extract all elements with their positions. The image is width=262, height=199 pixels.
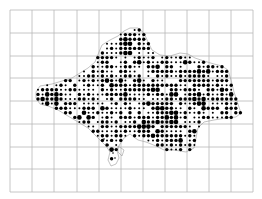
record-dot (180, 112, 182, 114)
record-dot (193, 121, 195, 123)
record-dot (212, 116, 214, 118)
record-dot (143, 93, 145, 95)
record-dot (115, 75, 117, 77)
record-dot (115, 52, 117, 54)
record-dot (106, 139, 108, 141)
record-dot (105, 125, 108, 128)
record-dot (124, 121, 126, 123)
record-dot (230, 89, 232, 91)
record-dot (111, 121, 113, 123)
record-dot (211, 88, 214, 91)
record-dot (147, 65, 150, 68)
record-dot (110, 88, 113, 91)
record-dot (234, 107, 237, 110)
record-dot (155, 88, 160, 93)
record-dot (92, 93, 94, 95)
record-dot (175, 70, 177, 72)
record-dot (170, 107, 173, 110)
record-dot (147, 120, 150, 123)
record-dot (133, 33, 136, 36)
record-dot (73, 116, 76, 119)
record-dot (175, 149, 177, 151)
record-dot (107, 144, 109, 146)
record-dot (143, 98, 145, 100)
record-dot (97, 103, 99, 105)
record-dot (134, 93, 136, 95)
record-dot (147, 134, 150, 137)
record-dot (220, 93, 223, 96)
record-dot (97, 121, 99, 123)
record-dot (120, 61, 122, 63)
record-dot (165, 107, 168, 110)
record-dot (184, 111, 187, 114)
record-dot (119, 125, 122, 128)
record-dot (65, 89, 67, 91)
record-dot (124, 125, 127, 128)
record-dot (147, 139, 149, 141)
record-dot (170, 149, 172, 151)
record-dot (184, 79, 187, 82)
record-dot (106, 130, 108, 132)
record-dot (92, 116, 95, 119)
record-dot (64, 111, 67, 114)
record-dot (197, 74, 200, 77)
record-dot (147, 112, 149, 114)
record-dot (216, 75, 218, 77)
record-dot (147, 75, 149, 77)
record-dot (211, 97, 214, 100)
record-dot (197, 111, 200, 114)
record-dot (216, 79, 219, 82)
record-dot (184, 144, 186, 146)
record-dot (69, 98, 71, 100)
record-dot (180, 66, 182, 68)
record-dot (216, 103, 218, 105)
record-dot (97, 98, 99, 100)
record-dot (192, 129, 197, 134)
record-dot (203, 66, 205, 68)
record-dot (229, 92, 234, 97)
record-dot (151, 120, 154, 123)
record-dot (133, 120, 136, 123)
record-dot (189, 103, 191, 105)
record-dot (45, 101, 50, 106)
record-dot (170, 65, 173, 68)
record-dot (115, 139, 117, 141)
record-dot (101, 66, 103, 68)
record-dot (143, 61, 145, 63)
record-dot (83, 103, 85, 105)
record-dot (124, 57, 126, 59)
record-dot (124, 47, 127, 50)
record-dot (78, 121, 80, 123)
record-dot (225, 107, 228, 110)
record-dot (88, 89, 90, 91)
record-dot (101, 130, 103, 132)
record-dot (83, 75, 85, 77)
record-dot (129, 93, 131, 95)
record-dot (96, 111, 99, 114)
record-dot (69, 79, 72, 82)
record-dot (188, 97, 191, 100)
record-dot (198, 89, 200, 91)
record-dot (165, 70, 168, 73)
record-dot (156, 93, 159, 96)
record-dot (51, 103, 53, 105)
record-dot (151, 125, 154, 128)
record-dot (111, 130, 113, 132)
record-dot (161, 134, 164, 137)
record-dot (170, 134, 173, 137)
record-dot (134, 116, 136, 118)
record-dot (152, 116, 154, 118)
record-dot (230, 107, 233, 110)
record-dot (226, 93, 228, 95)
record-dot (193, 116, 195, 118)
record-dot (101, 56, 104, 59)
record-dot (170, 61, 172, 63)
record-dot (161, 75, 163, 77)
record-dot (115, 148, 118, 151)
record-dot (105, 120, 108, 123)
record-dot (111, 43, 113, 45)
record-dot (87, 107, 90, 110)
record-dot (225, 111, 228, 114)
record-dot (41, 88, 44, 91)
record-dot (175, 98, 177, 100)
